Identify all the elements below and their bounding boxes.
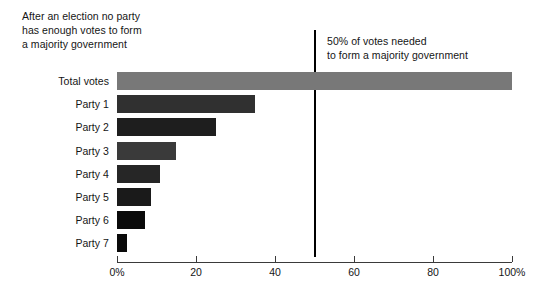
bar-label-party-6: Party 6	[3, 211, 109, 229]
bar-fill	[117, 142, 176, 160]
x-axis-tick-label: 0%	[109, 266, 124, 279]
x-axis-tick	[275, 256, 276, 262]
x-axis-tick-label: 40	[269, 266, 281, 279]
bar-fill	[117, 118, 216, 136]
bar-label-party-5: Party 5	[3, 188, 109, 206]
bar-label-party-4: Party 4	[3, 165, 109, 183]
bar-label-party-2: Party 2	[3, 118, 109, 136]
bar-fill	[117, 211, 145, 229]
bar-party-5	[117, 188, 151, 206]
x-axis-tick-label: 60	[348, 266, 360, 279]
bar-party-1	[117, 95, 255, 113]
bar-party-2	[117, 118, 216, 136]
x-axis-tick	[433, 256, 434, 262]
bar-fill	[117, 188, 151, 206]
bar-fill	[117, 234, 127, 252]
bar-party-6	[117, 211, 145, 229]
bar-party-3	[117, 142, 176, 160]
x-axis-tick	[512, 256, 513, 262]
majority-threshold-note-annotation: 50% of votes needed to form a majority g…	[327, 34, 542, 62]
election-note-annotation: After an election no party has enough vo…	[22, 9, 202, 52]
bar-total-votes	[117, 72, 512, 90]
x-axis-line	[117, 262, 512, 263]
bar-fill	[117, 165, 160, 183]
x-axis-tick-label: 20	[190, 266, 202, 279]
bar-label-party-7: Party 7	[3, 234, 109, 252]
bar-party-4	[117, 165, 160, 183]
bar-label-total-votes: Total votes	[3, 72, 109, 90]
bar-fill	[117, 72, 512, 90]
bar-fill	[117, 95, 255, 113]
bar-party-7	[117, 234, 127, 252]
x-axis-tick	[117, 256, 118, 262]
x-axis-tick	[354, 256, 355, 262]
x-axis-tick-label: 100%	[499, 266, 526, 279]
x-axis-tick	[196, 256, 197, 262]
x-axis-tick-label: 80	[427, 266, 439, 279]
vote-share-bar-chart: After an election no party has enough vo…	[0, 0, 548, 296]
bar-label-party-3: Party 3	[3, 142, 109, 160]
bar-label-party-1: Party 1	[3, 95, 109, 113]
